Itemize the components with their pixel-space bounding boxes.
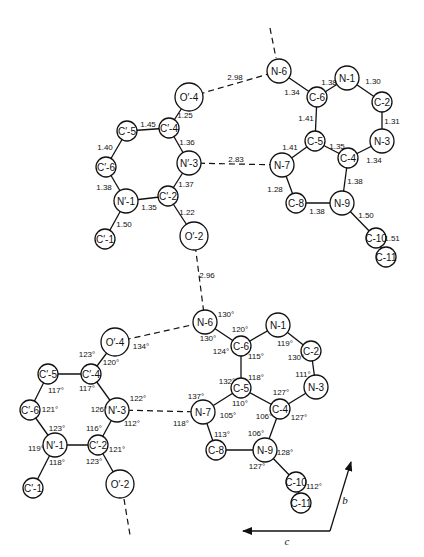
bond-length-label: 1.34: [284, 88, 300, 97]
atom-a-n7: N-7: [270, 153, 294, 177]
bond-length-label: 1.45: [140, 120, 156, 129]
atom-label: N-3: [308, 382, 325, 393]
atom-label: C-2: [374, 97, 391, 108]
bond-angle-label: 137°: [188, 392, 205, 401]
atom-a-n3: N-3: [370, 129, 394, 153]
bond-angle-label: 110°: [232, 399, 248, 408]
atom-label: C′-2: [159, 191, 177, 202]
atom-label: C-6: [309, 92, 326, 103]
bond-angle-label: 132°: [219, 377, 236, 386]
bond-angle-label: 106°: [248, 429, 265, 438]
atom-b-c11: C-11: [291, 493, 312, 513]
bond-length-label: 1.36: [179, 138, 195, 147]
atom-a-n1: N-1: [335, 66, 359, 90]
atom-label: N-6: [271, 66, 288, 77]
bond-angle-label: 127°: [291, 413, 308, 422]
atom-a-c8: C-8: [286, 193, 306, 213]
bond-angle-label: 117°: [79, 384, 95, 393]
atom-a-c5: C-5: [305, 131, 325, 151]
atom-u-n1: N′-1: [114, 189, 138, 213]
atom-label: C′-6: [21, 405, 39, 416]
bond-angle-label: 123°: [79, 350, 96, 359]
atom-v-c1: C′-1: [23, 478, 43, 498]
atom-b-n7: N-7: [191, 400, 215, 424]
measurement-label-layer: 2.982.832.961.341.381.301.311.341.351.41…: [28, 73, 400, 491]
bond-angle-label: 127°: [273, 388, 290, 397]
hbond-distance-label: 2.83: [228, 155, 244, 164]
bond-angle-label: 127°: [249, 462, 266, 471]
atom-a-c2: C-2: [372, 92, 392, 112]
bond-length-label: 1.41: [282, 143, 298, 152]
b-axis-label: b: [342, 494, 348, 506]
bond-angle-label: 111°: [295, 370, 310, 379]
atom-label: N′-3: [108, 405, 126, 416]
atom-a-c6: C-6: [307, 87, 327, 107]
bond-angle-label: 117°: [48, 386, 64, 395]
atom-label: O′-2: [185, 231, 204, 242]
covalent-bond-layer: [30, 71, 386, 503]
atom-label: N-7: [195, 407, 212, 418]
bond-angle-label: 119°: [28, 444, 44, 453]
bond-length-label: 1.50: [116, 220, 132, 229]
atom-label: C-6: [233, 341, 250, 352]
bond-angle-label: 118°: [248, 373, 264, 382]
atom-a-c4: C-4: [338, 148, 358, 168]
atom-a-c11: C-11: [376, 247, 397, 267]
atom-v-o4: O′-4: [101, 328, 129, 356]
atom-label: C-4: [272, 404, 289, 415]
atom-label: C-8: [208, 445, 225, 456]
bond-length-label: 1.28: [267, 185, 283, 194]
bond-angle-label: 123°: [49, 424, 66, 433]
bond-angle-label: 121°: [42, 405, 59, 414]
bond-angle-label: 115°: [248, 352, 264, 361]
atom-label: C-11: [376, 252, 397, 263]
bond-angle-label: 112°: [306, 482, 322, 491]
crystal-structure-diagram: N-6C-6N-1C-2N-3C-4C-5N-7C-8N-9C-10C-11O′…: [0, 0, 424, 557]
hydrogen-bond-line: [270, 28, 276, 58]
atom-v-c2: C′-2: [88, 435, 108, 455]
atom-label: C-10: [285, 477, 307, 488]
bond-angle-label: 130°: [218, 310, 235, 319]
atom-label: N′-1: [117, 196, 135, 207]
bond-length-label: 1.35: [329, 142, 345, 151]
atom-a-n6: N-6: [267, 59, 291, 83]
atom-u-c4: C′-4: [159, 118, 179, 138]
hydrogen-bond-line: [117, 410, 203, 412]
atom-label: C′-2: [89, 440, 107, 451]
atom-v-c4: C′-4: [81, 364, 101, 384]
bond-length-label: 1.22: [179, 208, 195, 217]
bond-angle-label: 119°: [277, 339, 293, 348]
atom-label: N′-1: [46, 440, 64, 451]
hydrogen-bond-line: [124, 499, 130, 535]
atom-b-c4: C-4: [270, 399, 290, 419]
bond-angle-label: 118°: [173, 419, 189, 428]
bond-length-label: 1.30: [365, 77, 381, 86]
atom-u-c5: C′-5: [117, 121, 137, 141]
bond-length-label: 1.50: [358, 211, 374, 220]
atom-a-n9: N-9: [330, 191, 354, 215]
bond-angle-label: 130°: [288, 353, 305, 362]
atom-label: C′-5: [118, 126, 136, 137]
molecular-diagram-svg: N-6C-6N-1C-2N-3C-4C-5N-7C-8N-9C-10C-11O′…: [0, 0, 424, 557]
atom-label: C-5: [233, 383, 250, 394]
bond-angle-label: 126°: [91, 405, 108, 414]
bond-length-label: 1.51: [384, 234, 400, 243]
b-axis-arrow: [330, 462, 351, 531]
atom-b-n9: N-9: [253, 438, 277, 462]
bond-angle-label: 118°: [49, 458, 65, 467]
atom-label: C-4: [340, 153, 357, 164]
bond-length-label: 1.34: [366, 156, 382, 165]
bond-angle-label: 124°: [213, 347, 230, 356]
bond-angle-label: 113°: [214, 430, 230, 439]
atom-label: N-1: [339, 73, 356, 84]
bond-length-label: 1.38: [96, 183, 112, 192]
atom-b-n6: N-6: [193, 310, 217, 334]
bond-length-label: 1.31: [384, 117, 400, 126]
bond-angle-label: 122°: [130, 394, 147, 403]
atom-label: N-9: [334, 198, 351, 209]
atom-u-o2: O′-2: [180, 222, 208, 250]
atom-u-o4: O′-4: [175, 83, 203, 111]
atom-label: N-9: [257, 445, 274, 456]
atom-u-c2: C′-2: [158, 186, 178, 206]
atom-label: C-8: [288, 198, 305, 209]
